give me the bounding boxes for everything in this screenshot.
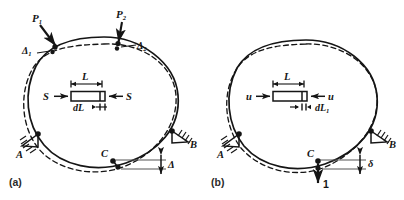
- deflection-label-delta-b: δ: [368, 158, 374, 169]
- panel-caption-a: (a): [9, 176, 22, 188]
- force-label-u-right-b: u: [328, 91, 334, 102]
- point-label-c-a: C: [101, 148, 109, 159]
- force-label-S-right-a: S: [126, 91, 132, 102]
- force-label-S-left-a: S: [43, 91, 49, 102]
- element-length-label-a: L: [81, 71, 88, 82]
- support-label-a-a: A: [15, 149, 23, 160]
- node-dot-p1-a: [52, 44, 57, 49]
- node-dot-p2-a: [115, 41, 120, 46]
- unit-load-label-b: 1: [323, 178, 329, 190]
- node-dot-p2-deformed-a: [115, 46, 119, 50]
- force-label-u-left-b: u: [246, 91, 252, 102]
- element-length-label-b: L: [283, 71, 290, 82]
- point-label-c-b: C: [307, 148, 315, 159]
- element-elongation-label-a: dL: [73, 102, 84, 113]
- node-dot-p1-deformed-a: [50, 50, 54, 54]
- support-label-b-a: B: [189, 139, 197, 150]
- deflection-label-delta-a: Δ: [167, 159, 175, 170]
- support-label-b-b: B: [388, 139, 396, 150]
- engineering-figure: P1 P2 Δ1 Δ2 L S: [0, 0, 404, 200]
- figure-background: [0, 0, 404, 200]
- panel-caption-b: (b): [211, 176, 224, 188]
- support-label-a-b: A: [216, 149, 224, 160]
